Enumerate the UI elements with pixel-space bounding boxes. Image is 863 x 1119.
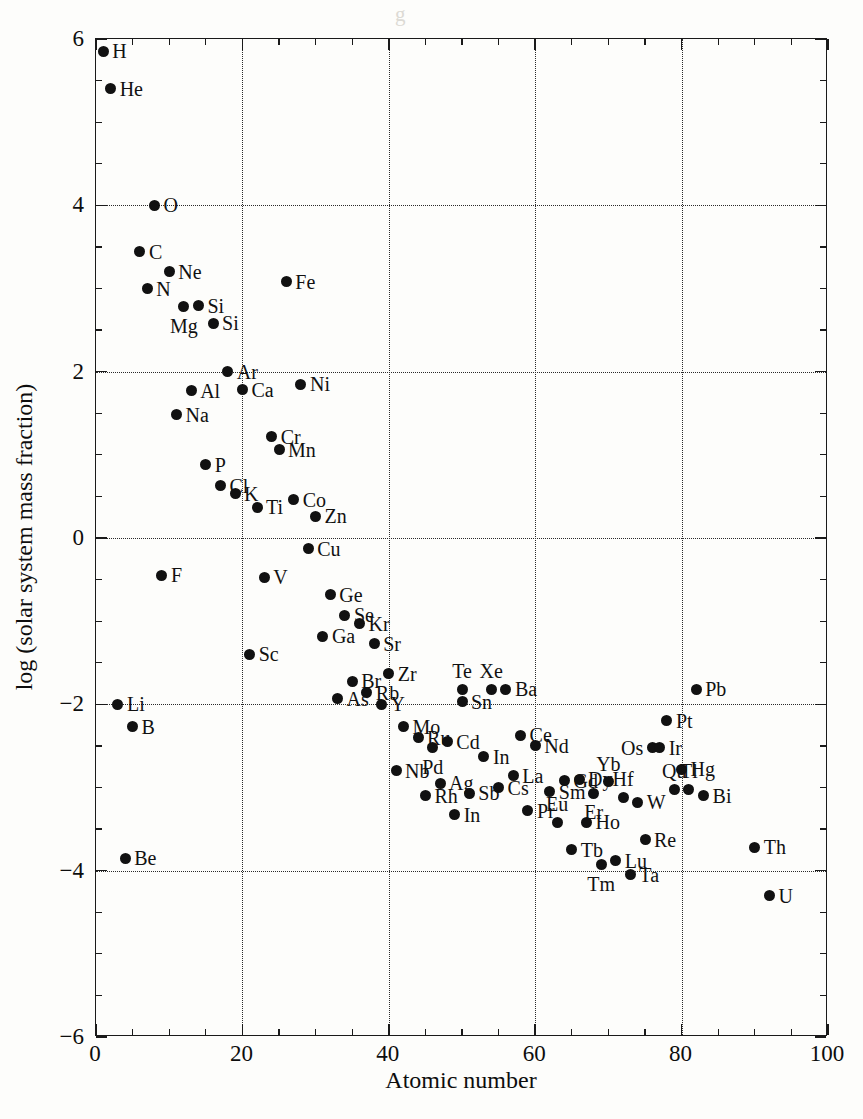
- y-tick-minor: [820, 413, 826, 414]
- data-point: [178, 301, 189, 312]
- data-point-label: Ne: [178, 262, 201, 282]
- data-point: [457, 684, 468, 695]
- x-tick-minor: [608, 1029, 609, 1035]
- y-tick-minor: [820, 621, 826, 622]
- gridline-vertical: [389, 39, 390, 1035]
- y-tick-minor: [820, 745, 826, 746]
- y-tick-major: [96, 38, 107, 40]
- y-tick-major: [815, 1036, 826, 1038]
- y-tick-minor: [96, 662, 102, 663]
- data-point-label: O: [164, 195, 178, 215]
- y-tick-minor: [96, 329, 102, 330]
- data-point-label: Tm: [587, 874, 615, 894]
- data-point: [486, 684, 497, 695]
- data-point: [640, 834, 651, 845]
- data-point-label: Na: [186, 405, 209, 425]
- data-point-label: Cu: [317, 539, 340, 559]
- y-tick-minor: [820, 163, 826, 164]
- data-point-label: Cd: [456, 732, 479, 752]
- data-point-label: W: [647, 792, 666, 812]
- x-tick-label: 40: [376, 1042, 399, 1065]
- y-tick-minor: [820, 579, 826, 580]
- y-tick-major: [96, 371, 107, 373]
- data-point-label: Ta: [639, 865, 659, 885]
- data-point: [208, 318, 219, 329]
- y-tick-minor: [96, 413, 102, 414]
- y-tick-major: [96, 1036, 107, 1038]
- x-tick-minor: [718, 39, 719, 45]
- x-tick-major: [534, 39, 536, 50]
- data-point-label: Hf: [612, 769, 633, 789]
- data-point-label: Sr: [383, 634, 401, 654]
- data-point: [435, 778, 446, 789]
- gridline-horizontal: [96, 372, 826, 373]
- data-point: [764, 890, 775, 901]
- data-point: [295, 379, 306, 390]
- x-tick-major: [534, 1024, 536, 1035]
- data-point: [369, 638, 380, 649]
- data-point-label: Os: [621, 738, 643, 758]
- gridline-vertical: [242, 39, 243, 1035]
- y-tick-minor: [96, 912, 102, 913]
- x-tick-major: [388, 1024, 390, 1035]
- data-point-label: C: [149, 242, 162, 262]
- y-tick-major: [96, 537, 107, 539]
- data-point-label: Ga: [332, 626, 355, 646]
- x-tick-major: [242, 39, 244, 50]
- y-tick-minor: [96, 621, 102, 622]
- x-tick-label: 60: [523, 1042, 546, 1065]
- data-point-label: Zr: [398, 664, 417, 684]
- y-tick-major: [96, 870, 107, 872]
- data-point-label: Al: [200, 381, 220, 401]
- data-point: [427, 742, 438, 753]
- data-point: [156, 570, 167, 581]
- y-tick-minor: [96, 163, 102, 164]
- data-point: [310, 511, 321, 522]
- y-tick-minor: [96, 787, 102, 788]
- data-point: [449, 809, 460, 820]
- data-point: [288, 494, 299, 505]
- y-tick-label: 4: [73, 193, 85, 216]
- gridline-horizontal: [96, 871, 826, 872]
- data-point: [478, 751, 489, 762]
- data-point: [398, 721, 409, 732]
- data-point: [442, 736, 453, 747]
- data-point-label: Ca: [251, 380, 273, 400]
- data-point-label: Ti: [266, 497, 283, 517]
- y-tick-minor: [96, 828, 102, 829]
- y-tick-minor: [96, 454, 102, 455]
- data-point: [332, 693, 343, 704]
- y-tick-minor: [96, 953, 102, 954]
- y-tick-minor: [96, 579, 102, 580]
- data-point: [698, 790, 709, 801]
- x-tick-minor: [644, 39, 645, 45]
- x-tick-minor: [205, 1029, 206, 1035]
- data-point-label: Si: [222, 313, 239, 333]
- x-tick-minor: [571, 39, 572, 45]
- y-tick-major: [815, 870, 826, 872]
- data-point-label: He: [120, 79, 143, 99]
- data-point-label: Y: [390, 694, 404, 714]
- y-tick-minor: [96, 80, 102, 81]
- data-point-label: V: [273, 567, 287, 587]
- data-point: [493, 782, 504, 793]
- x-tick-label: 80: [669, 1042, 692, 1065]
- scan-bleed-artifact: g: [395, 2, 406, 27]
- y-tick-minor: [96, 496, 102, 497]
- data-point: [632, 797, 643, 808]
- data-point-label: P: [215, 455, 226, 475]
- data-point: [500, 684, 511, 695]
- data-point: [127, 721, 138, 732]
- data-point-label: In: [493, 747, 510, 767]
- data-point: [383, 668, 394, 679]
- y-tick-minor: [820, 828, 826, 829]
- data-point-label: Mg: [170, 316, 198, 336]
- data-point: [669, 784, 680, 795]
- y-tick-minor: [96, 246, 102, 247]
- data-point: [171, 409, 182, 420]
- data-point-label: Fe: [295, 272, 315, 292]
- data-point: [347, 676, 358, 687]
- x-tick-label: 100: [810, 1042, 845, 1065]
- x-tick-label: 0: [89, 1042, 101, 1065]
- data-point: [522, 805, 533, 816]
